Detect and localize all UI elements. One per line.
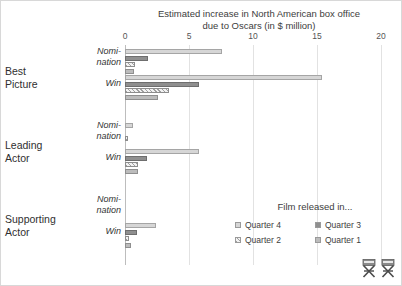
legend-item-q3[interactable]: Quarter 3 xyxy=(315,220,395,230)
category-label-line: Best xyxy=(5,65,79,78)
subgroup-label-line: nation xyxy=(79,57,121,68)
x-tick-label-20: 20 xyxy=(376,31,385,41)
bar-q1[interactable] xyxy=(125,69,134,74)
decorative-icons xyxy=(361,258,396,282)
director-chair-icon xyxy=(361,258,377,282)
legend-swatch-q3 xyxy=(315,222,321,228)
subgroup-label-line: nation xyxy=(79,205,121,216)
x-tick-label-15: 15 xyxy=(312,31,321,41)
subgroup-label-line: Nomi- xyxy=(79,194,121,205)
chart-title-line-1: Estimated increase in North American box… xyxy=(121,8,397,20)
bar-group xyxy=(125,123,395,149)
bar-q2[interactable] xyxy=(125,136,128,141)
bar-q1[interactable] xyxy=(125,243,131,248)
director-chair-icon xyxy=(380,258,396,282)
chart-group: BestPictureNomi-nationWin xyxy=(1,45,402,115)
subgroup-label: Win xyxy=(79,78,121,89)
legend-label: Quarter 2 xyxy=(245,235,281,245)
subgroup-label-line: Win xyxy=(79,226,121,237)
legend-label: Quarter 1 xyxy=(325,235,361,245)
bar-q3[interactable] xyxy=(125,56,148,61)
category-label-line: Actor xyxy=(5,226,79,239)
bar-q1[interactable] xyxy=(125,95,158,100)
bar-group xyxy=(125,49,395,75)
subgroup-label: Win xyxy=(79,152,121,163)
subgroup-label: Nomi-nation xyxy=(79,120,121,142)
legend-label: Quarter 3 xyxy=(325,220,361,230)
subgroup-label-line: Nomi- xyxy=(79,120,121,131)
bar-q2[interactable] xyxy=(125,162,138,167)
bar-q2[interactable] xyxy=(125,88,169,93)
legend-swatch-q2 xyxy=(235,237,241,243)
category-label-line: Picture xyxy=(5,78,79,91)
bar-q3[interactable] xyxy=(125,156,147,161)
category-label: SupportingActor xyxy=(5,213,79,239)
category-label-line: Leading xyxy=(5,139,79,152)
legend-item-q1[interactable]: Quarter 1 xyxy=(315,235,395,245)
legend-item-q4[interactable]: Quarter 4 xyxy=(235,220,315,230)
x-tick-label-5: 5 xyxy=(187,31,192,41)
subgroup-label-line: Win xyxy=(79,78,121,89)
bar-q4[interactable] xyxy=(125,149,199,154)
bar-q4[interactable] xyxy=(125,123,133,128)
bar-q2[interactable] xyxy=(125,236,129,241)
legend-label: Quarter 4 xyxy=(245,220,281,230)
bar-q3[interactable] xyxy=(125,230,137,235)
bar-q4[interactable] xyxy=(125,223,156,228)
bar-group xyxy=(125,149,395,175)
bar-q2[interactable] xyxy=(125,62,135,67)
legend-items: Quarter 4Quarter 3Quarter 2Quarter 1 xyxy=(235,220,395,250)
subgroup-label-line: Win xyxy=(79,152,121,163)
bar-q4[interactable] xyxy=(125,49,222,54)
x-tick-label-10: 10 xyxy=(248,31,257,41)
bar-group xyxy=(125,75,395,101)
subgroup-label: Win xyxy=(79,226,121,237)
bar-q1[interactable] xyxy=(125,169,138,174)
x-tick-label-0: 0 xyxy=(123,31,128,41)
bar-q4[interactable] xyxy=(125,75,322,80)
category-label-line: Supporting xyxy=(5,213,79,226)
subgroup-label-line: nation xyxy=(79,131,121,142)
x-axis-tick-labels: 05101520 xyxy=(1,31,402,45)
subgroup-label: Nomi-nation xyxy=(79,194,121,216)
category-label: BestPicture xyxy=(5,65,79,91)
chart-title: Estimated increase in North American box… xyxy=(121,8,397,32)
legend-swatch-q4 xyxy=(235,222,241,228)
legend-swatch-q1 xyxy=(315,237,321,243)
legend-title: Film released in... xyxy=(235,201,395,212)
subgroup-label-line: Nomi- xyxy=(79,46,121,57)
chart-legend: Film released in... Quarter 4Quarter 3Qu… xyxy=(235,201,395,250)
legend-item-q2[interactable]: Quarter 2 xyxy=(235,235,315,245)
chart-group: LeadingActorNomi-nationWin xyxy=(1,119,402,189)
chart-container: Estimated increase in North American box… xyxy=(0,0,402,286)
category-label: LeadingActor xyxy=(5,139,79,165)
bar-q3[interactable] xyxy=(125,82,199,87)
category-label-line: Actor xyxy=(5,152,79,165)
subgroup-label: Nomi-nation xyxy=(79,46,121,68)
